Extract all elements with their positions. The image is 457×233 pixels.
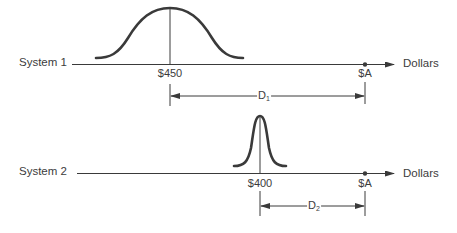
diagram-graphics (0, 0, 457, 233)
system-2-mean-label: $400 (248, 178, 272, 189)
system-1-distance-label: D1 (257, 90, 271, 102)
system-1-axis-unit: Dollars (403, 58, 439, 70)
system-1-mean-label: $450 (158, 68, 182, 79)
system-2-distance-label: D2 (307, 200, 321, 212)
system-2-target-label: $A (358, 178, 371, 189)
system-1-target-label: $A (358, 68, 371, 79)
system-2-distance-subscript: 2 (316, 205, 320, 212)
system-1-group (72, 8, 394, 106)
system-2-axis-unit: Dollars (403, 168, 439, 180)
system-1-label: System 1 (19, 57, 67, 69)
distribution-comparison-diagram: System 1 $450 $A Dollars D1 System 2 $40… (0, 0, 457, 233)
system-1-distance-letter: D (258, 89, 266, 101)
system-2-group (77, 116, 394, 216)
system-2-target-dot (363, 171, 367, 175)
system-2-distance-letter: D (308, 199, 316, 211)
system-2-label: System 2 (19, 166, 67, 178)
system-1-distance-subscript: 1 (266, 95, 270, 102)
